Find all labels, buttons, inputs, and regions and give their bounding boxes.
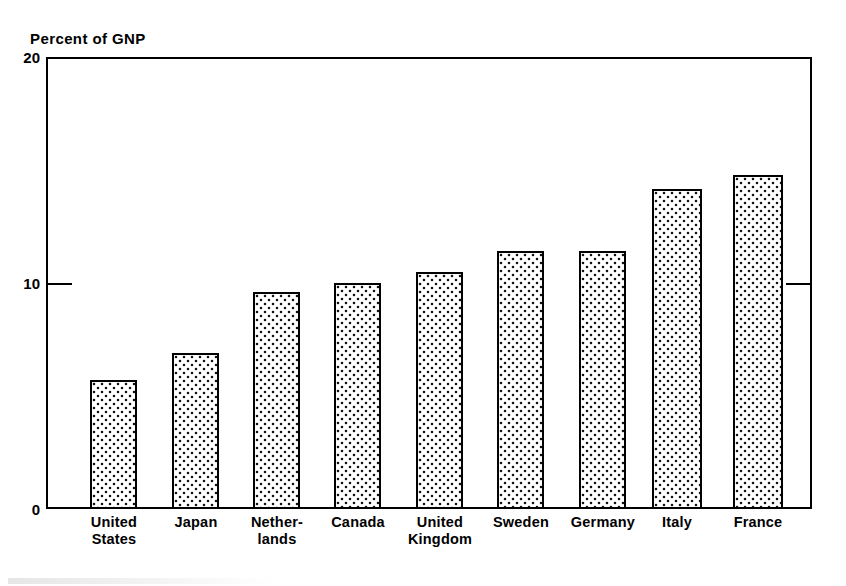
x-category-label-germany: Germany — [558, 514, 648, 531]
x-category-label-united-kingdom: United Kingdom — [394, 514, 486, 548]
bar-italy — [652, 189, 702, 509]
bar-united-states — [90, 380, 137, 509]
bar-chart-figure: Percent of GNP 20 10 0 United States Jap… — [0, 0, 846, 586]
bars-layer — [0, 0, 846, 586]
x-category-label-italy: Italy — [636, 514, 718, 531]
bar-netherlands — [253, 292, 300, 509]
bar-sweden — [497, 251, 544, 509]
x-category-label-france: France — [717, 514, 799, 531]
bar-canada — [334, 283, 381, 509]
bar-france — [733, 175, 783, 509]
x-category-label-united-states: United States — [73, 514, 155, 548]
x-category-label-japan: Japan — [155, 514, 237, 531]
bar-japan — [172, 353, 219, 509]
bar-germany — [579, 251, 626, 509]
scan-edge-artifact — [8, 578, 308, 584]
bar-united-kingdom — [416, 272, 463, 509]
x-category-label-canada: Canada — [317, 514, 399, 531]
x-category-label-sweden: Sweden — [480, 514, 562, 531]
x-category-label-netherlands: Nether- lands — [233, 514, 321, 548]
